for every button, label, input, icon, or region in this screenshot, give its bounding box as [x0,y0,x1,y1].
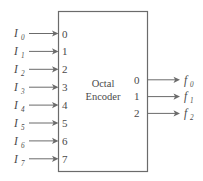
output-label-1: f [184,90,189,103]
output-label-2: f [184,107,189,120]
input-port-number-2: 2 [62,63,68,75]
output-port-number-2: 2 [134,107,140,119]
output-subscript-0: 0 [190,81,194,89]
input-subscript-4: 4 [21,106,25,114]
input-row-2: I 2 2 [13,63,68,78]
input-row-3: I 3 3 [13,81,68,96]
input-label-7: I [13,153,19,165]
output-label-0: f [184,74,189,87]
octal-encoder-diagram: Octal Encoder I 0 0 I 1 1 I 2 2 I [0,0,203,181]
output-subscript-1: 1 [190,97,194,105]
input-subscript-7: 7 [21,160,25,168]
block-title-line2: Encoder [86,91,121,102]
output-port-number-0: 0 [134,74,140,86]
input-label-6: I [13,135,19,147]
input-row-7: I 7 7 [13,153,68,168]
input-label-2: I [13,63,19,75]
input-label-0: I [13,27,19,39]
input-port-number-3: 3 [62,81,68,93]
input-port-number-1: 1 [62,45,68,57]
input-port-number-4: 4 [62,99,68,111]
input-subscript-2: 2 [21,70,25,78]
input-row-5: I 5 5 [13,117,68,132]
encoder-diagram-canvas: Octal Encoder I 0 0 I 1 1 I 2 2 I [0,0,203,181]
input-subscript-5: 5 [21,124,25,132]
output-row-0: 0 f 0 [134,74,194,89]
input-port-number-7: 7 [62,153,68,165]
input-row-6: I 6 6 [13,135,68,150]
input-subscript-1: 1 [21,52,25,60]
input-label-1: I [13,45,19,57]
input-label-5: I [13,117,19,129]
output-row-1: 1 f 1 [134,90,194,105]
input-row-4: I 4 4 [13,99,68,114]
output-port-number-1: 1 [134,90,140,102]
output-row-2: 2 f 2 [134,107,194,122]
input-row-1: I 1 1 [13,45,68,60]
input-row-0: I 0 0 [13,27,68,42]
input-label-3: I [13,81,19,93]
input-subscript-6: 6 [21,142,25,150]
input-port-number-5: 5 [62,117,68,129]
input-port-number-0: 0 [62,28,68,40]
input-port-number-6: 6 [62,135,68,147]
block-title-line1: Octal [92,78,115,89]
input-subscript-3: 3 [20,88,25,96]
input-subscript-0: 0 [21,34,25,42]
input-label-4: I [13,99,19,111]
output-subscript-2: 2 [190,114,194,122]
